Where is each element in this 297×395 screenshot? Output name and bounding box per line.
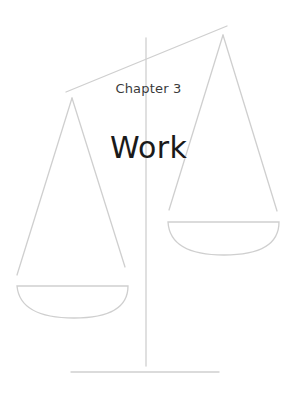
left-pan-strings: [17, 98, 125, 275]
right-pan-strings: [169, 35, 277, 211]
right-pan: [168, 222, 279, 255]
chapter-number-label: Chapter 3: [0, 81, 297, 96]
balance-scale-illustration: [0, 0, 297, 395]
chapter-title: Work: [0, 130, 297, 166]
chapter-title-page: Chapter 3 Work: [0, 0, 297, 395]
left-pan: [17, 286, 128, 318]
